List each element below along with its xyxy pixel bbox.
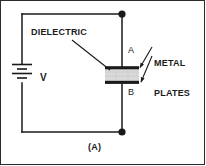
metal-plates-label-line1: METAL xyxy=(154,59,190,69)
plate-B xyxy=(105,81,139,84)
plate-a-label: A xyxy=(128,46,134,56)
dielectric-layer xyxy=(105,69,139,82)
figure-container: DIELECTRIC METAL PLATES V A B (A) xyxy=(0,0,206,166)
junction-dot-top xyxy=(118,10,125,17)
metal-plates-leader-bottom xyxy=(141,56,152,82)
plate-A xyxy=(105,66,139,69)
battery-symbol xyxy=(12,65,32,79)
voltage-source-label: V xyxy=(40,73,47,84)
metal-plates-leader-top xyxy=(140,47,152,68)
metal-plates-label-line2: PLATES xyxy=(154,89,190,99)
dielectric-label: DIELECTRIC xyxy=(31,28,87,38)
plate-b-label: B xyxy=(128,88,134,98)
metal-plates-label: METAL PLATES xyxy=(154,40,190,118)
figure-caption: (A) xyxy=(88,143,101,153)
dielectric-leader-line xyxy=(72,40,110,70)
capacitor-symbol xyxy=(105,66,139,84)
junction-dot-bottom xyxy=(118,128,125,135)
